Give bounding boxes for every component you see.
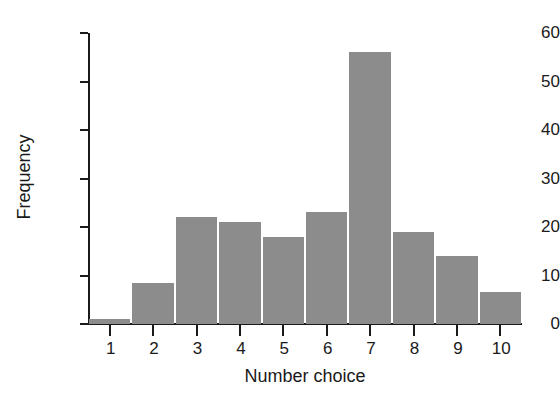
x-axis-tick-label: 6 [308, 340, 348, 357]
bar [393, 232, 434, 324]
y-axis-line [88, 33, 90, 325]
x-axis-tick [196, 325, 198, 336]
bar [263, 237, 304, 324]
x-axis-tick [239, 325, 241, 336]
x-axis-tick-label: 5 [264, 340, 304, 357]
chart-figure: 0102030405060 12345678910 Number choice … [0, 0, 560, 400]
x-axis-tick [326, 325, 328, 336]
y-axis-tick [80, 178, 88, 180]
bar [219, 222, 260, 324]
y-axis-tick-label: 30 [508, 170, 560, 187]
x-axis-tick-label: 4 [221, 340, 261, 357]
y-axis-tick [80, 32, 88, 34]
x-axis-tick [499, 325, 501, 336]
x-axis-tick [456, 325, 458, 336]
y-axis-tick [80, 323, 88, 325]
y-axis-tick [80, 275, 88, 277]
y-axis-tick-label: 10 [508, 267, 560, 284]
x-axis-tick-label: 10 [481, 340, 521, 357]
bar [436, 256, 477, 324]
bar [480, 292, 521, 324]
x-axis-tick-label: 8 [395, 340, 435, 357]
x-axis-tick-label: 7 [351, 340, 391, 357]
y-axis-tick [80, 226, 88, 228]
bar [306, 212, 347, 324]
x-axis-tick-label: 2 [134, 340, 174, 357]
bar [349, 52, 390, 324]
x-axis-tick-label: 9 [438, 340, 478, 357]
bar [89, 319, 130, 324]
x-axis-tick [152, 325, 154, 336]
x-axis-tick [282, 325, 284, 336]
x-axis-tick-label: 3 [178, 340, 218, 357]
y-axis-tick-label: 40 [508, 121, 560, 138]
bar [176, 217, 217, 324]
x-axis-title: Number choice [88, 367, 522, 385]
plot-area: 0102030405060 12345678910 Number choice … [0, 0, 560, 400]
y-axis-tick-label: 60 [508, 24, 560, 41]
bar [132, 283, 173, 324]
y-axis-tick [80, 81, 88, 83]
y-axis-tick-label: 50 [508, 73, 560, 90]
x-axis-tick [413, 325, 415, 336]
y-axis-title: Frequency [15, 87, 33, 267]
x-axis-tick [369, 325, 371, 336]
y-axis-tick [80, 129, 88, 131]
y-axis-tick-label: 20 [508, 218, 560, 235]
x-axis-tick-label: 1 [91, 340, 131, 357]
x-axis-tick [109, 325, 111, 336]
